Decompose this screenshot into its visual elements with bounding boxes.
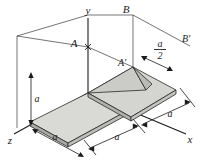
dim-half-a-numerator: a xyxy=(158,38,163,49)
x-axis-label: x xyxy=(187,133,193,145)
figure-container: y x z A A' B B' a a a a a 2 xyxy=(0,0,206,163)
dim-x-a-near-label: a xyxy=(115,131,120,142)
point-A-label: A xyxy=(70,37,78,49)
dim-x-a-far-label: a xyxy=(168,108,173,119)
z-axis-label: z xyxy=(7,134,13,146)
figure-diagram: y x z A A' B B' a a a a a 2 xyxy=(0,0,206,163)
point-B-label: B xyxy=(123,3,130,15)
y-axis-label: y xyxy=(85,4,91,16)
dim-half-a-denominator: 2 xyxy=(158,50,163,61)
point-B-prime-label: B' xyxy=(182,33,191,44)
point-A-prime-label: A' xyxy=(117,57,127,68)
dim-height-a-label: a xyxy=(35,93,40,104)
dim-z-a-label: a xyxy=(53,131,58,142)
